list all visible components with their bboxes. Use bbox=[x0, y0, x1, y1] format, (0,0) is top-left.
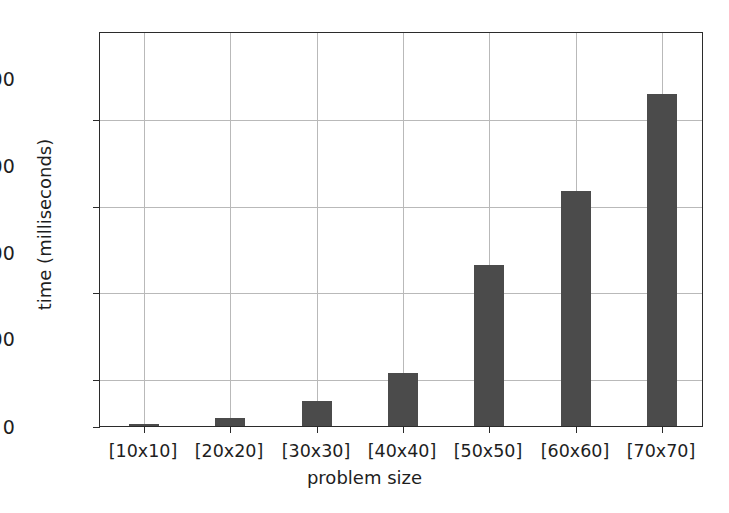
bar-40x40 bbox=[388, 373, 418, 426]
gridline-horizontal bbox=[100, 207, 702, 208]
x-axis-tick bbox=[230, 426, 231, 433]
x-axis-tick bbox=[662, 426, 663, 433]
x-tick-label: [20x20] bbox=[195, 441, 264, 461]
y-axis-tick bbox=[93, 120, 100, 121]
x-tick-label: [30x30] bbox=[282, 441, 351, 461]
x-tick-label: [60x60] bbox=[541, 441, 610, 461]
plot-area bbox=[99, 32, 703, 427]
x-tick-label: [50x50] bbox=[454, 441, 523, 461]
gridline-horizontal bbox=[100, 293, 702, 294]
gridline-vertical bbox=[317, 33, 318, 426]
y-axis-tick bbox=[93, 207, 100, 208]
y-axis-tick bbox=[93, 427, 100, 428]
x-axis-tick bbox=[144, 426, 145, 433]
figure-canvas: 0 200 400 600 800 [10x10] [20x20] [30x30… bbox=[0, 0, 729, 513]
x-tick-label: [10x10] bbox=[109, 441, 178, 461]
x-tick-label: [70x70] bbox=[627, 441, 696, 461]
bar-50x50 bbox=[474, 265, 504, 426]
gridline-horizontal bbox=[100, 120, 702, 121]
bar-30x30 bbox=[302, 401, 332, 426]
x-tick-label: [40x40] bbox=[368, 441, 437, 461]
x-axis-tick bbox=[403, 426, 404, 433]
x-axis-tick bbox=[576, 426, 577, 433]
gridline-vertical bbox=[230, 33, 231, 426]
y-tick-label: 600 bbox=[0, 157, 15, 176]
y-tick-label: 200 bbox=[0, 330, 15, 349]
x-axis-title: problem size bbox=[0, 467, 729, 488]
y-axis-title: time (milliseconds) bbox=[34, 75, 55, 375]
y-axis-tick bbox=[93, 293, 100, 294]
y-axis-tick bbox=[93, 380, 100, 381]
gridline-vertical bbox=[403, 33, 404, 426]
x-axis-tick bbox=[317, 426, 318, 433]
x-axis-tick bbox=[489, 426, 490, 433]
bar-20x20 bbox=[215, 418, 245, 426]
bar-70x70 bbox=[647, 94, 677, 426]
bar-60x60 bbox=[561, 191, 591, 426]
gridline-vertical bbox=[144, 33, 145, 426]
bar-10x10 bbox=[129, 424, 159, 426]
y-tick-label: 0 bbox=[0, 418, 15, 437]
y-tick-label: 400 bbox=[0, 244, 15, 263]
y-tick-label: 800 bbox=[0, 70, 15, 89]
